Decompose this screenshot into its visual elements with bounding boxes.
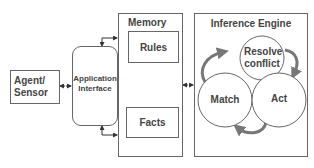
- application-interface-label: Application Interface: [73, 74, 117, 94]
- inference-engine-box: [194, 13, 308, 157]
- resolve-conflict-label: Resolve conflict: [244, 46, 280, 70]
- memory-title: Memory: [128, 17, 168, 29]
- inference-engine-title: Inference Engine: [194, 18, 308, 30]
- match-label: Match: [205, 94, 245, 106]
- rules-label: Rules: [128, 42, 179, 54]
- interface-rules-arrow: [102, 38, 117, 46]
- act-label: Act: [264, 93, 294, 105]
- facts-label: Facts: [126, 117, 179, 129]
- interface-facts-arrow: [102, 126, 117, 135]
- agent-sensor-label: Agent/ Sensor: [14, 75, 48, 99]
